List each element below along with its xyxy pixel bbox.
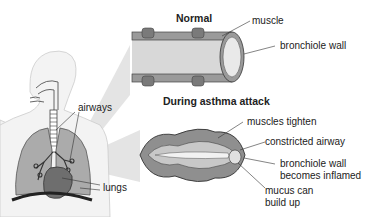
label-lungs: lungs [103,182,127,193]
asthma-diagram [0,0,375,217]
label-mucus-line2: build up [265,197,300,208]
label-mucus-line1: mucus can [265,185,313,196]
label-muscle: muscle [252,15,284,26]
asthma-bronchiole-tube [140,129,245,181]
asthma-title: During asthma attack [163,95,270,107]
label-airways: airways [78,102,112,113]
label-inflamed-line1: bronchiole wall [280,158,346,169]
label-inflamed-line2: becomes inflamed [280,170,361,181]
normal-title: Normal [176,12,212,24]
label-bronchiole-wall: bronchiole wall [280,40,346,51]
label-muscles-tighten: muscles tighten [247,116,316,127]
normal-bronchiole-tube [132,28,244,86]
label-constricted-airway: constricted airway [265,136,345,147]
